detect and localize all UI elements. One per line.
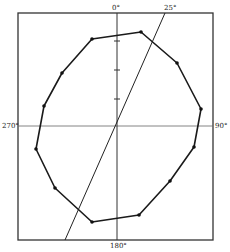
polar-curve — [36, 32, 201, 222]
label-0-deg: 0° — [112, 5, 120, 12]
vertex-dot — [34, 147, 38, 151]
curve-vertices — [34, 30, 203, 224]
vertex-dot — [192, 145, 196, 149]
vertex-dot — [53, 186, 57, 190]
vertex-dot — [168, 179, 172, 183]
label-25-deg: 25° — [164, 5, 176, 12]
vertex-dot — [42, 104, 46, 108]
diagram-canvas — [0, 0, 230, 252]
vertex-dot — [60, 71, 64, 75]
vertex-dot — [139, 30, 143, 34]
vertex-dot — [137, 213, 141, 217]
label-90-deg: 90° — [215, 123, 227, 130]
vertex-dot — [90, 37, 94, 41]
vertex-dot — [175, 61, 179, 65]
vertex-dot — [199, 107, 203, 111]
angle-line-25deg — [65, 13, 165, 240]
label-180-deg: 180° — [110, 243, 127, 250]
label-270-deg: 270° — [2, 123, 19, 130]
polar-diagram: 0° 25° 90° 180° 270° — [0, 0, 230, 252]
vertex-dot — [90, 220, 94, 224]
